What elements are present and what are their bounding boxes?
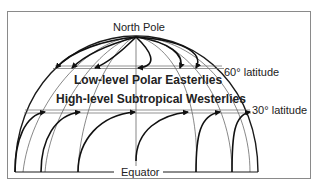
equator-label: Equator	[118, 166, 163, 178]
north-pole-label: North Pole	[113, 21, 165, 33]
latitude-60-label: 60° latitude	[224, 66, 279, 78]
subtropical-westerly-arrows	[15, 112, 250, 172]
latitude-30-label: 30° latitude	[252, 104, 307, 116]
subtropical-westerlies-label: High-level Subtropical Westerlies	[56, 92, 246, 106]
polar-easterlies-label: Low-level Polar Easterlies	[74, 73, 222, 87]
